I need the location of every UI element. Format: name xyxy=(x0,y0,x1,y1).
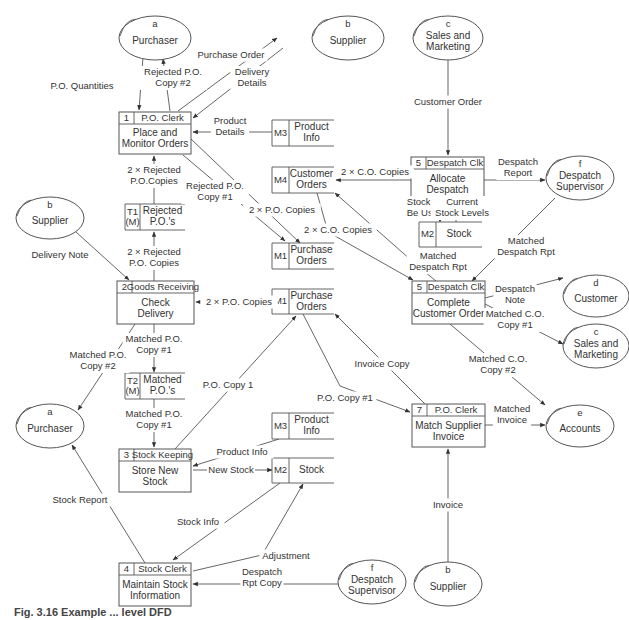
flow-label-text: Matched xyxy=(494,403,530,414)
process-p3[interactable]: 3Stock KeepingStore NewStock xyxy=(119,449,193,492)
external-entity-f2[interactable]: fDespatchSupervisor xyxy=(338,560,406,604)
store-name: Orders xyxy=(296,255,327,266)
flow-label: DeliveryDetails xyxy=(230,66,273,90)
flow-label-text: P.O. Quantities xyxy=(50,80,113,91)
entity-name: Despatch xyxy=(559,170,601,181)
store-code: M1 xyxy=(274,250,287,261)
data-store-m4[interactable]: M4CustomerOrders xyxy=(272,167,334,193)
flow-label-text: P.O.Copies xyxy=(130,175,178,186)
entity-code: e xyxy=(577,407,582,418)
external-entity-b1[interactable]: bSupplier xyxy=(312,16,384,60)
process-p5b[interactable]: 5Despatch ClkCompleteCustomer Order xyxy=(412,281,485,324)
flow-label-text: 2 × P.O. Copies xyxy=(206,296,272,307)
process-name: Information xyxy=(130,590,180,601)
flow-label-text: Rpt Copy xyxy=(242,577,282,588)
flow-label-text: P.O. Copy #1 xyxy=(317,392,373,403)
process-number: 5 xyxy=(416,157,421,168)
flow-label-text: Copy #1 xyxy=(497,319,532,330)
flow-label: MatchedInvoice xyxy=(493,403,531,427)
flow-label-text: P.O. Copies xyxy=(129,257,179,268)
data-store-t1[interactable]: T1(M)RejectedP.O.'s xyxy=(125,204,185,230)
flow-label-text: Rejected P.O. xyxy=(144,66,202,77)
flow-label: MatchedDespatch Rpt xyxy=(495,235,558,259)
external-entity-f1[interactable]: fDespatchSupervisor xyxy=(546,156,614,200)
external-entity-b2[interactable]: bSupplier xyxy=(16,197,84,239)
store-name: Rejected xyxy=(143,205,182,216)
entity-name: Purchaser xyxy=(27,423,73,434)
data-store-m3b[interactable]: M3ProductInfo xyxy=(272,413,334,439)
external-entity-d1[interactable]: dCustomer xyxy=(563,275,629,317)
flow-label: Delivery Note xyxy=(26,249,94,262)
external-entity-a1[interactable]: aPurchaser xyxy=(119,16,191,60)
flow-label-text: 2 × Rejected xyxy=(127,164,181,175)
flow-label-text: Despatch Rpt xyxy=(497,246,555,257)
entity-code: a xyxy=(152,18,158,29)
entity-name: Despatch xyxy=(351,574,393,585)
flow-label-text: Report xyxy=(504,167,533,178)
store-code: (M) xyxy=(125,216,139,227)
flow-label: 2 × C.O. Copies xyxy=(299,224,377,237)
process-number: 5 xyxy=(417,281,422,292)
flow-label-text: Product xyxy=(214,115,247,126)
store-code: (M) xyxy=(125,385,139,396)
external-entity-a2[interactable]: aPurchaser xyxy=(16,404,84,448)
entity-code: b xyxy=(345,18,350,29)
store-code: M2 xyxy=(421,228,434,239)
flow-label-text: Matched P.O. xyxy=(126,333,183,344)
store-name: Customer xyxy=(290,168,334,179)
flow-label-text: 2 × P.O. Copies xyxy=(249,204,315,215)
external-entity-c1[interactable]: cSales andMarketing xyxy=(413,16,483,60)
store-name: Purchase xyxy=(290,290,333,301)
process-p4[interactable]: 4Stock ClerkMaintain StockInformation xyxy=(119,563,191,606)
external-entity-e1[interactable]: eAccounts xyxy=(546,405,614,447)
process-actor: Goods Receiving xyxy=(127,281,199,292)
flow-label: 2 × C.O. Copies xyxy=(336,166,414,179)
process-name: Match Supplier xyxy=(415,420,482,431)
process-actor: P.O. Clerk xyxy=(435,404,478,415)
process-name: Check xyxy=(141,297,170,308)
flow-label-text: 2 × Rejected xyxy=(127,246,181,257)
entity-code: b xyxy=(47,199,52,210)
process-p7[interactable]: 7P.O. ClerkMatch SupplierInvoice xyxy=(412,404,485,447)
flow-label-text: Copy #2 xyxy=(480,364,515,375)
flow-label-text: Matched xyxy=(508,235,544,246)
external-entity-c2[interactable]: cSales andMarketing xyxy=(563,324,629,368)
entity-name: Supervisor xyxy=(348,585,396,596)
process-p5a[interactable]: 5Despatch ClkAllocateDespatch xyxy=(411,157,484,200)
process-p2[interactable]: 2Goods ReceivingCheckDelivery xyxy=(117,281,199,324)
flow-label-text: Invoice xyxy=(497,414,527,425)
flow-label-text: Note xyxy=(505,294,525,305)
data-store-m2a[interactable]: M2Stock xyxy=(419,222,482,247)
entity-code: d xyxy=(593,277,598,288)
data-store-m1b[interactable]: M1PurchaseOrders xyxy=(272,289,334,314)
flow-label: CurrentStock Levels xyxy=(431,196,494,220)
process-p1[interactable]: 1P.O. ClerkPlace andMonitor Orders xyxy=(119,112,191,154)
flow-label-text: Invoice Copy xyxy=(355,358,410,369)
data-store-m2b[interactable]: M2Stock xyxy=(272,458,334,483)
store-name: Info xyxy=(303,132,320,143)
process-name: Stock xyxy=(142,476,168,487)
flow-label: P.O. Copy #1 xyxy=(314,392,377,405)
flow-label-text: Matched P.O. xyxy=(126,408,183,419)
flow-label: Invoice Copy xyxy=(351,358,414,371)
process-actor: Stock Clerk xyxy=(138,563,187,574)
flow-label: Matched P.O.Copy #2 xyxy=(67,349,130,373)
data-store-m3a[interactable]: M3ProductInfo xyxy=(272,120,334,146)
process-name: Store New xyxy=(132,465,179,476)
entity-name: Supervisor xyxy=(556,181,604,192)
store-code: M2 xyxy=(274,464,287,475)
entity-name: Supplier xyxy=(32,215,69,226)
flow-label: Rejected P.O.Copy #2 xyxy=(139,66,207,90)
flow-label-text: Stock Levels xyxy=(435,207,489,218)
entity-name: Marketing xyxy=(426,41,470,52)
process-name: Monitor Orders xyxy=(122,138,189,149)
flow-label: Matched C.O.Copy #1 xyxy=(484,308,547,332)
data-store-t2[interactable]: T2(M)MatchedP.O.'s xyxy=(125,373,185,399)
entity-name: Customer xyxy=(574,293,618,304)
data-store-m1a[interactable]: M1PurchaseOrders xyxy=(272,243,334,269)
process-name: Despatch xyxy=(426,184,468,195)
flow-label: 2 × P.O. Copies xyxy=(200,296,278,309)
flow-label: Matched P.O.Copy #1 xyxy=(123,408,186,432)
external-entity-b3[interactable]: bSupplier xyxy=(414,562,482,606)
store-name: Matched xyxy=(143,374,181,385)
